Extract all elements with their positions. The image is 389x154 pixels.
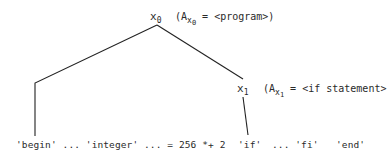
leaf-fi-tokens: ... 'fi': [272, 140, 319, 150]
node-x0-subscript: 0: [157, 16, 162, 25]
annotation-x0-value: = <program>): [196, 11, 274, 22]
annotation-x1-open: (A: [263, 83, 275, 94]
annotation-x1-index: 1: [280, 91, 284, 99]
edge-x0-to-left-leaf: [35, 25, 157, 136]
node-x0-annotation: (Ax0 = <program>): [175, 12, 274, 22]
leaf-left-tokens: 'begin' ... 'integer' ... = 256 *+ 2: [16, 140, 226, 150]
node-x1-subscript: 1: [244, 88, 249, 97]
node-x0-name: x: [150, 10, 157, 23]
node-x1: x1: [237, 83, 248, 94]
node-x1-annotation: (Ax1 = <if statement>: [263, 84, 386, 94]
node-x0: x0: [150, 11, 161, 22]
edge-x1-to-if-leaf: [243, 97, 248, 135]
edge-x0-to-x1: [157, 25, 243, 79]
parse-tree-diagram: x0 (Ax0 = <program>) x1 (Ax1 = <if state…: [0, 0, 389, 154]
leaf-end-token: 'end': [336, 140, 365, 150]
annotation-x1-value: = <if statement>: [284, 83, 386, 94]
leaf-if-token: 'if': [238, 140, 261, 150]
node-x1-name: x: [237, 82, 244, 95]
annotation-x0-open: (A: [175, 11, 187, 22]
annotation-x0-index: 0: [192, 19, 196, 27]
